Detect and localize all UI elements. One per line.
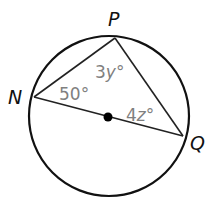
angle-label-Q: 4z° [126,105,154,125]
point-label-Q: Q [190,132,205,154]
angle-label-N: 50° [59,84,89,104]
point-label-P: P [108,8,120,30]
center-dot [104,113,113,122]
angle-label-P: 3y° [95,62,124,82]
circle-diagram: N P Q 50° 3y° 4z° [0,0,220,206]
point-label-N: N [8,86,22,108]
